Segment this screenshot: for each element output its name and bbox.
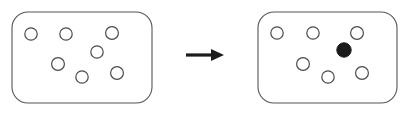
item-circle-open	[351, 27, 364, 40]
item-circle-open	[111, 67, 124, 80]
item-circle-open	[307, 27, 319, 39]
item-circle-open	[106, 27, 119, 40]
arrow-head-icon	[211, 49, 224, 61]
panel-before	[12, 12, 152, 103]
item-circle-open	[76, 71, 88, 83]
transition-arrow	[186, 49, 224, 61]
container-box-before	[12, 12, 152, 103]
item-circle-open	[271, 27, 283, 39]
panel-after	[258, 12, 397, 103]
item-circle-open	[356, 67, 369, 80]
container-box-after	[258, 12, 397, 103]
arrow-shaft-icon	[186, 53, 213, 56]
item-circle-open	[60, 28, 72, 40]
item-circle-filled	[337, 43, 351, 57]
item-circle-open	[322, 71, 334, 83]
item-circle-open	[25, 28, 37, 40]
item-circle-open	[52, 58, 65, 71]
transformation-diagram	[0, 0, 412, 117]
item-circle-open	[297, 58, 310, 71]
diagram-canvas	[0, 0, 412, 117]
item-circle-open	[91, 46, 103, 58]
